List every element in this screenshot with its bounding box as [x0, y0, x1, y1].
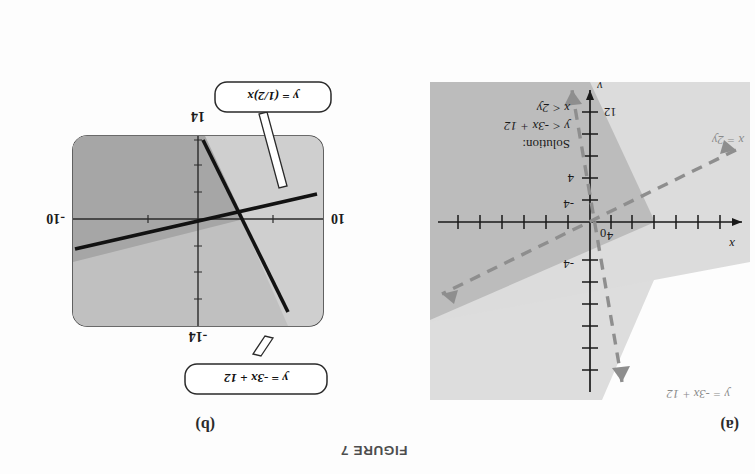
figure-caption: FIGURE 7	[299, 443, 449, 458]
callout-2-text: y = (1/2)x	[247, 89, 301, 104]
x-axis-label: x	[729, 237, 736, 251]
solution-inequality-2: x < 2y	[536, 101, 571, 116]
panel-a-svg: x y 0 4 -4 4 -4 12 y = -3x + 12 x = 2y S…	[430, 82, 750, 412]
callout-1-leader	[253, 336, 273, 356]
window-label-y-min: -14	[189, 329, 208, 344]
calculator-screen-content	[73, 136, 323, 326]
panel-b-svg: -14 14 10 -10 y = -3x + 12 y = (1/2)x	[25, 62, 365, 412]
panel-b-calculator-screen: -14 14 10 -10 y = -3x + 12 y = (1/2)x	[25, 62, 365, 412]
x-tick-label-neg4: -4	[563, 197, 574, 211]
y-intercept-label-12: 12	[604, 105, 617, 119]
panel-a-graph: x y 0 4 -4 4 -4 12 y = -3x + 12 x = 2y S…	[430, 82, 750, 412]
window-label-x-max: 10	[331, 211, 345, 226]
line-label-y-eq-neg3x-plus-12: y = -3x + 12	[667, 387, 732, 401]
scanned-figure-page: FIGURE 7 (a)	[0, 0, 755, 474]
callout-1-text: y = -3x + 12	[224, 371, 290, 386]
origin-label: 0	[600, 226, 606, 240]
boundary-line-1-arrow-start	[612, 366, 630, 382]
y-tick-label-4: 4	[567, 171, 574, 185]
solution-inequality-1: y < -3x + 12	[504, 119, 572, 134]
callout-line-1-group: y = -3x + 12	[185, 336, 327, 394]
window-label-y-max: 14	[191, 109, 205, 124]
panel-b-letter: (b)	[195, 416, 215, 434]
line-label-x-eq-2y: x = 2y	[712, 133, 745, 147]
solution-heading: Solution:	[522, 137, 570, 152]
x-tick-label-4: 4	[606, 229, 613, 243]
panel-a-letter: (a)	[720, 416, 739, 434]
y-tick-label-neg4: -4	[563, 257, 574, 271]
window-label-x-min: -10	[46, 211, 65, 226]
